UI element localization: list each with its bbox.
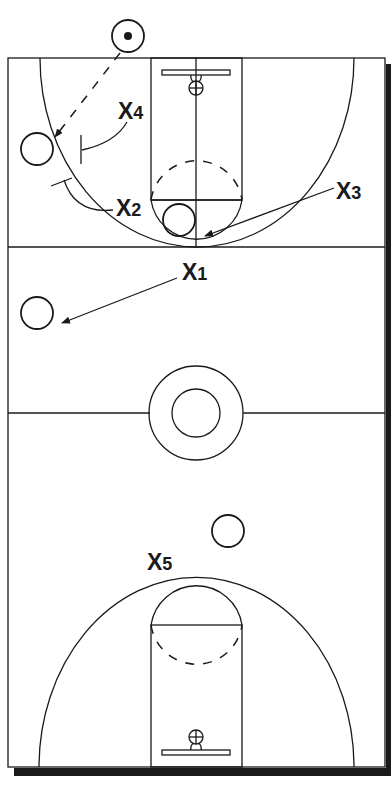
three-point-arc-top bbox=[40, 58, 354, 247]
basket-bottom-icon bbox=[189, 730, 203, 750]
free-throw-circle-dashed-bottom bbox=[151, 625, 242, 664]
x1-cut-arrow bbox=[62, 278, 177, 323]
x2-screen bbox=[51, 178, 113, 210]
label-x5: X5 bbox=[147, 549, 172, 575]
label-x2: X2 bbox=[116, 195, 141, 221]
player-backcourt bbox=[212, 515, 244, 547]
ball-handler-player bbox=[112, 20, 144, 52]
lane-bottom bbox=[151, 625, 242, 767]
x3-cut-arrow bbox=[205, 188, 334, 236]
defender-labels: X4 X2 X3 X1 X5 bbox=[116, 98, 361, 575]
ball-icon bbox=[124, 32, 132, 40]
x4-screen bbox=[81, 122, 127, 164]
player-left-sideline bbox=[21, 297, 53, 329]
player-lane bbox=[163, 204, 195, 236]
label-x3: X3 bbox=[336, 178, 361, 204]
free-throw-circle-solid-bottom bbox=[151, 586, 242, 625]
center-circle-outer bbox=[149, 366, 243, 460]
top-half-markings bbox=[40, 58, 354, 247]
player-left-wing bbox=[21, 133, 53, 165]
center-circle-inner bbox=[172, 389, 220, 437]
basketball-court-diagram: X4 X2 X3 X1 X5 bbox=[0, 0, 391, 790]
label-x1: X1 bbox=[182, 259, 207, 285]
label-x4: X4 bbox=[118, 98, 143, 124]
backboard-bottom bbox=[162, 750, 230, 755]
pass-arrow bbox=[55, 53, 120, 137]
bottom-half-markings bbox=[39, 577, 354, 767]
